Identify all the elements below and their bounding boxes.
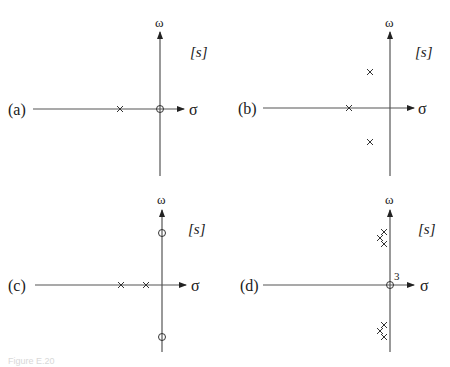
panel-label: (a) — [8, 101, 26, 119]
figure-caption: Figure E.20 — [8, 356, 55, 366]
real-axis-label: σ — [418, 100, 427, 117]
real-axis-label: σ — [189, 101, 198, 118]
plane-label: [s] — [415, 44, 433, 60]
plane-label: [s] — [190, 44, 208, 60]
imag-axis-label: ω — [155, 15, 164, 30]
pole-marker — [381, 334, 387, 340]
panel-label: (c) — [8, 277, 26, 295]
pole-marker — [381, 229, 387, 235]
plane-label: [s] — [418, 221, 436, 237]
panel-label: (d) — [240, 277, 259, 295]
pole-marker — [381, 241, 387, 247]
real-axis-label: σ — [420, 277, 429, 294]
plane-label: [s] — [188, 221, 206, 237]
imag-axis-label: ω — [385, 15, 394, 30]
pole-marker — [367, 139, 373, 145]
panel-d: (d) ω σ [s] 3 — [240, 192, 436, 352]
real-axis-label: σ — [191, 277, 200, 294]
pole-zero-figure: (a) ω σ [s] (b) ω σ [s] (c) ω σ [ — [0, 0, 450, 367]
multiplicity-label: 3 — [394, 270, 400, 282]
panel-label: (b) — [238, 100, 257, 118]
panel-c: (c) ω σ [s] — [8, 192, 206, 352]
panel-a: (a) ω σ [s] — [8, 15, 208, 176]
pole-marker — [367, 69, 373, 75]
imag-axis-label: ω — [157, 192, 166, 207]
pole-marker — [381, 322, 387, 328]
pole-marker — [377, 328, 383, 334]
panel-b: (b) ω σ [s] — [238, 15, 433, 176]
pole-marker — [377, 235, 383, 241]
imag-axis-label: ω — [385, 192, 394, 207]
